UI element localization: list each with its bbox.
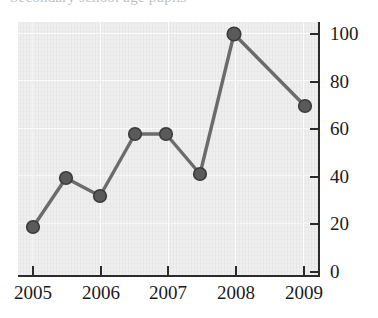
x-axis-tick [167, 266, 169, 275]
data-point[interactable] [227, 27, 241, 41]
y-axis-tick [310, 223, 319, 225]
x-axis-label: 2006 [68, 283, 134, 302]
x-axis-tick [303, 266, 305, 275]
x-axis-line [18, 275, 320, 277]
y-axis-label: 80 [330, 72, 349, 91]
x-axis-label: 2005 [0, 283, 66, 302]
data-point[interactable] [160, 128, 173, 141]
y-axis-tick [310, 271, 319, 273]
y-axis-label: 20 [330, 214, 349, 233]
data-point[interactable] [60, 172, 73, 185]
y-axis-label: 60 [330, 119, 349, 138]
data-point[interactable] [129, 128, 142, 141]
y-axis-label: 100 [330, 24, 359, 43]
y-axis-tick [310, 81, 319, 83]
y-axis-label: 40 [330, 167, 349, 186]
y-axis-tick [310, 128, 319, 130]
data-point[interactable] [299, 100, 312, 113]
data-point[interactable] [94, 190, 107, 203]
series-markers [27, 27, 312, 233]
x-axis-tick [32, 266, 34, 275]
data-series-layer [0, 0, 378, 318]
y-axis-label: 0 [330, 262, 340, 281]
data-point[interactable] [27, 221, 40, 234]
y-axis-line [318, 22, 320, 277]
x-axis-tick [100, 266, 102, 275]
x-axis-label: 2007 [135, 283, 201, 302]
x-axis-tick [235, 266, 237, 275]
x-axis-label: 2008 [203, 283, 269, 302]
x-axis-label: 2009 [271, 283, 337, 302]
y-axis-tick [310, 176, 319, 178]
data-point[interactable] [194, 168, 207, 181]
line-chart-figure: 100 80 60 40 20 0 2005 2006 2007 2008 20… [0, 0, 378, 318]
y-axis-tick [310, 33, 319, 35]
